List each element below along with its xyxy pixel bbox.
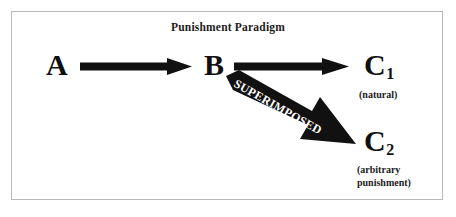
figure-canvas: Punishment Paradigm A B C1 C2 (natural) … (0, 0, 456, 217)
node-c1-subscript: 1 (386, 65, 394, 82)
node-c1: C1 (364, 50, 394, 80)
node-b: B (204, 50, 224, 80)
node-c1-label: C (364, 48, 386, 81)
node-c1-caption-line1: (natural) (359, 88, 397, 101)
node-c2: C2 (364, 126, 394, 156)
node-c1-caption: (natural) (359, 88, 397, 101)
node-c2-subscript: 2 (386, 141, 394, 158)
page-title: Punishment Paradigm (0, 21, 456, 33)
node-b-label: B (204, 48, 224, 81)
node-a: A (46, 50, 68, 80)
node-c2-caption-line1: (arbitrary (357, 163, 411, 176)
node-c2-caption-line2: punishment) (357, 176, 411, 189)
node-c2-label: C (364, 124, 386, 157)
node-c2-caption: (arbitrary punishment) (357, 163, 411, 189)
node-a-label: A (46, 48, 68, 81)
